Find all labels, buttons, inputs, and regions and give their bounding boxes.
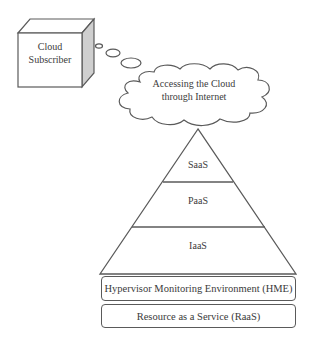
- pyramid-layer-paas: PaaS: [168, 195, 228, 206]
- cloud-label-line2: through Internet: [132, 90, 256, 103]
- thought-bubbles: [96, 44, 142, 68]
- pyramid-layer-saas: SaaS: [168, 159, 228, 170]
- raas-box: Resource as a Service (RaaS): [101, 304, 296, 328]
- bubble-small: [96, 44, 103, 48]
- cloud-label-line1: Accessing the Cloud: [132, 77, 256, 90]
- subscriber-label-line1: Cloud: [18, 40, 82, 53]
- cube-top: [18, 19, 94, 33]
- subscriber-label: Cloud Subscriber: [18, 40, 82, 66]
- hme-box: Hypervisor Monitoring Environment (HME): [101, 276, 296, 301]
- cloud-label: Accessing the Cloud through Internet: [132, 77, 256, 103]
- hme-label: Hypervisor Monitoring Environment (HME): [104, 283, 292, 294]
- bubble-medium: [106, 49, 120, 57]
- raas-label: Resource as a Service (RaaS): [137, 311, 261, 322]
- bubble-large: [121, 58, 141, 68]
- pyramid-layer-iaas: IaaS: [168, 240, 228, 251]
- subscriber-label-line2: Subscriber: [18, 53, 82, 66]
